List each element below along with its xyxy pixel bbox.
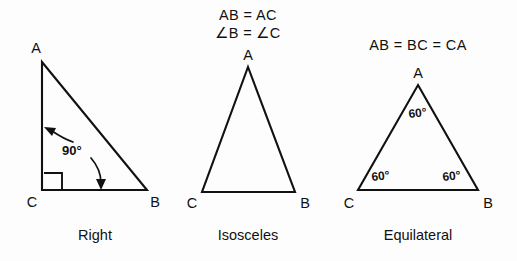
angle-label-60-left: 60° — [371, 168, 391, 184]
caption-isosceles: Isosceles — [218, 227, 278, 243]
panel-isosceles-triangle: AB = AC ∠B = ∠C A C B Isosceles — [187, 7, 310, 243]
relation-angles-isosceles: ∠B = ∠C — [215, 25, 280, 41]
angle-label-60-right: 60° — [442, 168, 462, 184]
vertex-label-a-equilateral: A — [413, 65, 423, 81]
isosceles-triangle-outline — [202, 67, 295, 192]
vertex-label-b-isosceles: B — [300, 195, 310, 211]
vertex-label-a-isosceles: A — [243, 47, 253, 63]
angle-label-90: 90° — [62, 143, 82, 158]
triangle-types-diagram: 90° A C B Right AB = AC ∠B = ∠C A C B Is… — [0, 0, 517, 261]
vertex-label-b-equilateral: B — [483, 195, 493, 211]
panel-right-triangle: 90° A C B Right — [27, 40, 160, 243]
angle-arrow-upper-curve — [52, 131, 73, 142]
relation-sides-isosceles: AB = AC — [219, 7, 277, 23]
caption-equilateral: Equilateral — [384, 227, 453, 243]
vertex-label-c-right: C — [27, 194, 37, 210]
vertex-label-a-right: A — [31, 40, 41, 56]
angle-label-60-apex: 60° — [408, 105, 428, 121]
angle-arrow-lower-head-icon — [96, 179, 106, 190]
vertex-label-c-isosceles: C — [187, 195, 197, 211]
right-triangle-outline — [42, 62, 147, 190]
angle-arrow-upper-head-icon — [44, 127, 56, 136]
caption-right: Right — [78, 227, 112, 243]
figure-canvas: 90° A C B Right AB = AC ∠B = ∠C A C B Is… — [0, 0, 517, 261]
right-angle-square-icon — [44, 173, 62, 189]
panel-equilateral-triangle: AB = BC = CA 60° 60° 60° A C B Equilater… — [344, 37, 493, 243]
vertex-label-b-right: B — [150, 194, 160, 210]
relation-sides-equilateral: AB = BC = CA — [369, 37, 466, 53]
vertex-label-c-equilateral: C — [344, 195, 354, 211]
